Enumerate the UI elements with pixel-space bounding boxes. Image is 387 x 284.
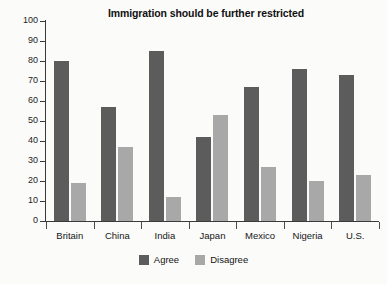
x-axis-label-mexico: Mexico [236,231,284,241]
legend-label: Agree [154,255,179,265]
bar-britain-agree [54,61,69,221]
bar-group [331,21,379,221]
x-axis-label-us: U.S. [331,231,379,241]
bar-china-disagree [118,147,133,221]
chart-title: Immigration should be further restricted [46,7,366,19]
y-axis-tick-label: 30 [2,156,38,165]
x-axis-separator [236,222,237,229]
x-axis-label-nigeria: Nigeria [284,231,332,241]
x-axis-label-japan: Japan [189,231,237,241]
bar-china-agree [101,107,116,221]
bar-group [94,21,142,221]
x-axis-label-britain: Britain [46,231,94,241]
y-axis-tick-label: 10 [2,196,38,205]
x-axis-line [45,221,379,222]
x-axis-label-india: India [141,231,189,241]
y-axis-tick-label: 70 [2,76,38,85]
bar-japan-agree [196,137,211,221]
legend-swatch-agree [139,255,149,265]
bar-mexico-agree [244,87,259,221]
y-axis-tick-label: 0 [2,216,38,225]
bar-nigeria-agree [292,69,307,221]
bar-mexico-disagree [261,167,276,221]
legend-item-disagree: Disagree [195,255,248,265]
y-axis-labels: 0102030405060708090100 [0,0,38,284]
x-axis-separator [379,222,380,229]
bar-nigeria-disagree [309,181,324,221]
bar-us-disagree [356,175,371,221]
legend-label: Disagree [210,255,248,265]
plot-area [46,21,379,221]
x-axis-separator [331,222,332,229]
y-axis-tick-label: 60 [2,96,38,105]
y-axis-tick-label: 40 [2,136,38,145]
x-axis-separator [46,222,47,229]
legend-swatch-disagree [195,255,205,265]
bar-group [141,21,189,221]
x-axis-separator [94,222,95,229]
bar-us-agree [339,75,354,221]
x-axis-separator [189,222,190,229]
y-axis-tick-label: 90 [2,36,38,45]
legend-item-agree: Agree [139,255,179,265]
bar-japan-disagree [213,115,228,221]
y-axis-tick-label: 100 [2,16,38,25]
bar-india-disagree [166,197,181,221]
bar-group [189,21,237,221]
bar-chart: Immigration should be further restricted… [0,0,387,284]
bar-india-agree [149,51,164,221]
bar-group [284,21,332,221]
y-axis-tick-label: 50 [2,116,38,125]
x-axis-separator [284,222,285,229]
chart-legend: AgreeDisagree [0,255,387,265]
bar-group [46,21,94,221]
bar-group [236,21,284,221]
y-axis-tick-label: 80 [2,56,38,65]
bar-britain-disagree [71,183,86,221]
x-axis-label-china: China [94,231,142,241]
y-axis-tick-label: 20 [2,176,38,185]
x-axis-separator [141,222,142,229]
